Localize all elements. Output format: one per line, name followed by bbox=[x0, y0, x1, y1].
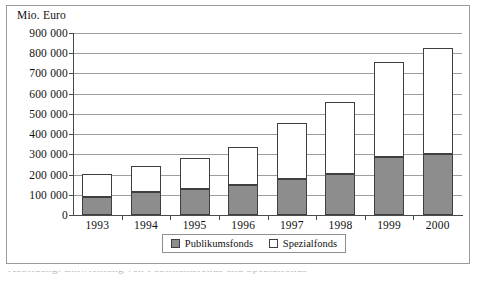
y-axis-tick-label: 700 000 bbox=[29, 67, 68, 79]
y-axis-tick-label: 300 000 bbox=[29, 148, 68, 160]
y-axis-tick-mark bbox=[69, 114, 73, 115]
bar-segment-spezialfonds bbox=[131, 166, 161, 191]
x-axis-tick-label: 1999 bbox=[365, 219, 414, 231]
legend-label: Publikumsfonds bbox=[185, 238, 253, 249]
x-axis-tick-mark bbox=[268, 216, 269, 220]
bar-segment-publikumsfonds bbox=[82, 197, 112, 215]
y-axis-tick-label: 400 000 bbox=[29, 128, 68, 140]
bar-segment-spezialfonds bbox=[82, 174, 112, 197]
y-axis-tick-mark bbox=[69, 53, 73, 54]
chart-figure: Mio. Euro 900 000800 000700 000600 00050… bbox=[0, 0, 477, 281]
bar-segment-publikumsfonds bbox=[131, 192, 161, 215]
y-axis-tick-mark bbox=[69, 134, 73, 135]
bar-segment-publikumsfonds bbox=[180, 189, 210, 215]
legend-swatch-icon bbox=[269, 239, 278, 248]
x-axis-tick-mark bbox=[316, 216, 317, 220]
y-axis-tick-label: 800 000 bbox=[29, 47, 68, 59]
bar-segment-publikumsfonds bbox=[325, 174, 355, 215]
bar-segment-spezialfonds bbox=[180, 158, 210, 189]
bar-group bbox=[374, 33, 404, 215]
legend-item-spezialfonds: Spezialfonds bbox=[269, 238, 337, 249]
bar-segment-publikumsfonds bbox=[228, 185, 258, 215]
y-axis-tick-labels: 900 000800 000700 000600 000500 000400 0… bbox=[0, 0, 68, 281]
y-axis-tick-label: 600 000 bbox=[29, 88, 68, 100]
x-axis-tick-mark bbox=[170, 216, 171, 220]
x-axis-tick-label: 1996 bbox=[219, 219, 268, 231]
bar-segment-spezialfonds bbox=[423, 48, 453, 154]
chart-legend: Publikumsfonds Spezialfonds bbox=[162, 234, 346, 253]
y-axis-tick-mark bbox=[69, 94, 73, 95]
y-axis-tick-label: 500 000 bbox=[29, 108, 68, 120]
y-axis-tick-mark bbox=[69, 175, 73, 176]
y-axis-tick-label: 100 000 bbox=[29, 189, 68, 201]
y-axis-tick-mark bbox=[69, 73, 73, 74]
bar-group bbox=[131, 33, 161, 215]
x-axis-tick-mark bbox=[122, 216, 123, 220]
x-axis-tick-label: 1998 bbox=[316, 219, 365, 231]
plot-area bbox=[73, 33, 462, 215]
y-axis-tick-label: 900 000 bbox=[29, 27, 68, 39]
bar-group bbox=[228, 33, 258, 215]
caption-strip: Abbildung: Entwicklung von Publikumsfond… bbox=[0, 271, 477, 281]
y-axis-tick-label: 200 000 bbox=[29, 169, 68, 181]
figure-caption: Abbildung: Entwicklung von Publikumsfond… bbox=[8, 271, 307, 274]
bar-segment-publikumsfonds bbox=[423, 154, 453, 215]
legend-label: Spezialfonds bbox=[283, 238, 337, 249]
y-axis-tick-label: 0 bbox=[62, 209, 68, 221]
bar-segment-spezialfonds bbox=[374, 62, 404, 157]
bar-segment-spezialfonds bbox=[325, 102, 355, 174]
x-axis-tick-label: 2000 bbox=[413, 219, 462, 231]
bar-group bbox=[180, 33, 210, 215]
x-axis-tick-label: 1995 bbox=[170, 219, 219, 231]
bar-group bbox=[325, 33, 355, 215]
x-axis-tick-mark bbox=[219, 216, 220, 220]
bar-segment-publikumsfonds bbox=[277, 179, 307, 215]
bar-group bbox=[277, 33, 307, 215]
bar-segment-spezialfonds bbox=[228, 147, 258, 185]
bar-segment-publikumsfonds bbox=[374, 157, 404, 215]
x-axis-tick-mark bbox=[413, 216, 414, 220]
y-axis-tick-mark bbox=[69, 154, 73, 155]
y-axis-tick-mark bbox=[69, 33, 73, 34]
bar-group bbox=[82, 33, 112, 215]
y-axis-tick-mark bbox=[69, 195, 73, 196]
y-axis-line bbox=[73, 33, 74, 216]
x-axis-tick-label: 1993 bbox=[73, 219, 122, 231]
x-axis-tick-label: 1994 bbox=[122, 219, 171, 231]
y-axis-tick-mark bbox=[69, 215, 73, 216]
x-axis-tick-mark bbox=[365, 216, 366, 220]
x-axis-tick-label: 1997 bbox=[268, 219, 317, 231]
legend-item-publikumsfonds: Publikumsfonds bbox=[171, 238, 253, 249]
legend-swatch-icon bbox=[171, 239, 180, 248]
bar-group bbox=[423, 33, 453, 215]
bar-segment-spezialfonds bbox=[277, 123, 307, 179]
